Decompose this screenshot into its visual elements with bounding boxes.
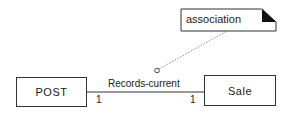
- class-sale: Sale: [204, 75, 276, 106]
- class-post: POST: [16, 77, 87, 107]
- multiplicity-right: 1: [190, 94, 196, 105]
- anchor-circle-icon: [155, 68, 160, 73]
- note-label: association: [186, 13, 241, 25]
- note-anchor-line: [159, 31, 227, 69]
- association-name: Records-current: [108, 78, 180, 89]
- multiplicity-left: 1: [96, 94, 102, 105]
